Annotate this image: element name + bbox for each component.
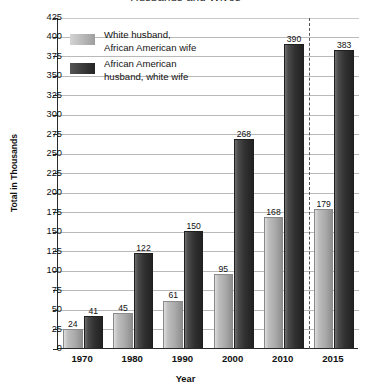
bar-1970-series2 <box>84 316 104 348</box>
legend-swatch-light <box>70 34 95 45</box>
legend-label-light-line2: African American wife <box>104 42 196 53</box>
y-axis-tick-label: 300 <box>26 110 62 119</box>
gridline <box>58 173 359 174</box>
gridline <box>58 95 359 96</box>
y-axis-tick-label: 125 <box>26 247 62 256</box>
y-axis-tick-label: 325 <box>26 91 62 100</box>
bar-2000-series2 <box>234 139 254 348</box>
x-axis-tick-label-1970: 1970 <box>57 353 107 364</box>
gridline <box>58 134 359 135</box>
bar-1980-series2 <box>134 253 154 348</box>
projection-divider-line <box>309 18 310 349</box>
x-axis-tick-label-2015: 2015 <box>308 353 358 364</box>
y-axis-tick-label: 0 <box>26 344 62 353</box>
x-axis-tick-label-2000: 2000 <box>208 353 258 364</box>
bar-1990-series1 <box>163 301 183 349</box>
legend-label-dark: African American husband, white wife <box>104 58 188 83</box>
y-axis-tick-label: 25 <box>26 325 62 334</box>
gridline <box>58 18 359 19</box>
y-axis-tick-label: 225 <box>26 169 62 178</box>
y-axis-tick-label: 100 <box>26 266 62 275</box>
bar-2015-series2 <box>334 50 354 348</box>
x-axis-title: Year <box>0 374 371 384</box>
bar-1970-series1 <box>63 329 83 348</box>
bar-value-label: 41 <box>78 307 110 316</box>
y-axis-tick-label: 425 <box>26 13 62 22</box>
bar-2015-series1 <box>314 209 334 348</box>
x-axis-tick-label-1990: 1990 <box>157 353 207 364</box>
y-axis-tick-label: 50 <box>26 305 62 314</box>
plot-area: 2441451226115095268168390179383 <box>57 18 358 349</box>
legend-label-dark-line2: husband, white wife <box>104 71 188 82</box>
chart-title: Husbands and Wives <box>0 0 371 3</box>
bar-1980-series1 <box>113 313 133 348</box>
bar-chart: Husbands and Wives Total in Thousands 24… <box>0 0 371 392</box>
legend-label-light-line1: White husband, <box>104 29 171 40</box>
y-axis-tick-label: 175 <box>26 208 62 217</box>
y-axis-tick-label: 275 <box>26 130 62 139</box>
y-axis-title: Total in Thousands <box>9 103 19 243</box>
y-axis-tick-label: 350 <box>26 71 62 80</box>
legend-label-dark-line1: African American <box>104 58 177 69</box>
y-axis-tick-label: 200 <box>26 188 62 197</box>
y-axis-tick-label: 75 <box>26 286 62 295</box>
bar-2010-series1 <box>264 217 284 348</box>
bar-1990-series2 <box>184 231 204 348</box>
gridline <box>58 115 359 116</box>
y-axis-tick-label: 150 <box>26 227 62 236</box>
x-axis-tick-label-1980: 1980 <box>107 353 157 364</box>
gridline <box>58 193 359 194</box>
y-axis-tick-label: 375 <box>26 52 62 61</box>
bar-2010-series2 <box>284 44 304 348</box>
legend-label-light: White husband, African American wife <box>104 29 196 54</box>
bar-2000-series1 <box>214 274 234 348</box>
bar-value-label: 390 <box>278 35 310 44</box>
gridline <box>58 154 359 155</box>
y-axis-tick-label: 400 <box>26 32 62 41</box>
x-axis-tick-label-2010: 2010 <box>258 353 308 364</box>
bar-value-label: 383 <box>328 41 360 50</box>
legend-swatch-dark <box>70 63 95 74</box>
bar-value-label: 268 <box>228 130 260 139</box>
y-axis-tick-label: 250 <box>26 149 62 158</box>
bar-value-label: 122 <box>128 244 160 253</box>
bar-value-label: 150 <box>178 222 210 231</box>
